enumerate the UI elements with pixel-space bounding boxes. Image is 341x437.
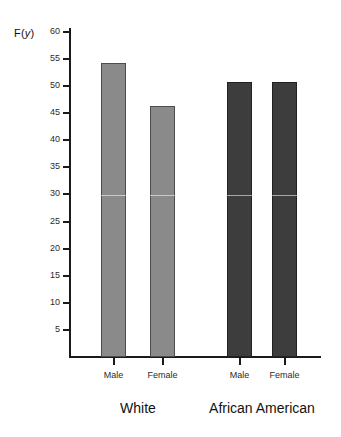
y-tick-label: 5	[14, 325, 60, 334]
bar	[272, 82, 297, 357]
y-tick-mark	[63, 275, 69, 277]
y-tick-label-text: 30	[14, 189, 60, 198]
y-tick-label: 50	[14, 81, 60, 90]
x-tick-mark	[284, 358, 286, 365]
y-tick-label-text: 40	[14, 135, 60, 144]
bar	[150, 106, 175, 357]
y-tick-label-text: 15	[14, 271, 60, 280]
x-tick-label: Male	[215, 370, 265, 381]
y-tick-label-text: 60	[14, 27, 60, 36]
x-tick-label: Male	[89, 370, 139, 381]
y-tick-label-text: 50	[14, 81, 60, 90]
bar	[101, 63, 126, 357]
y-tick-mark	[63, 302, 69, 304]
y-tick-label-text: 45	[14, 108, 60, 117]
y-tick-label: 60	[14, 27, 60, 36]
y-tick-mark	[63, 31, 69, 33]
y-tick-mark	[63, 85, 69, 87]
x-tick-mark	[239, 358, 241, 365]
y-tick-label-text: 20	[14, 244, 60, 253]
x-tick-mark	[162, 358, 164, 365]
x-tick-mark	[113, 358, 115, 365]
y-tick-mark	[63, 193, 69, 195]
x-tick-label: Female	[260, 370, 310, 381]
group-label: African American	[187, 400, 337, 417]
y-tick-label: 35	[14, 162, 60, 171]
y-tick-label: 25	[14, 217, 60, 226]
y-tick-mark	[63, 221, 69, 223]
y-tick-label: 55	[14, 54, 60, 63]
bar	[227, 82, 252, 357]
y-tick-label: 20	[14, 244, 60, 253]
y-tick-mark	[63, 166, 69, 168]
y-tick-mark	[63, 112, 69, 114]
gridline-artifact	[71, 195, 321, 196]
y-axis-line	[69, 28, 71, 358]
y-tick-label-text: 55	[14, 54, 60, 63]
bar-chart: F(y) 51015202530354045505560 MaleFemaleM…	[0, 0, 341, 437]
y-tick-label: 15	[14, 271, 60, 280]
y-tick-mark	[63, 58, 69, 60]
y-tick-mark	[63, 248, 69, 250]
y-tick-label-text: 25	[14, 217, 60, 226]
y-tick-label: 40	[14, 135, 60, 144]
y-tick-label-text: 5	[14, 325, 60, 334]
y-tick-label: 10	[14, 298, 60, 307]
y-tick-mark	[63, 139, 69, 141]
y-tick-mark	[63, 329, 69, 331]
y-tick-label-text: 35	[14, 162, 60, 171]
x-tick-label: Female	[138, 370, 188, 381]
y-tick-label: 30	[14, 189, 60, 198]
y-tick-label: 45	[14, 108, 60, 117]
plot-area: 51015202530354045505560 MaleFemaleMaleFe…	[0, 0, 341, 437]
y-tick-label-text: 10	[14, 298, 60, 307]
